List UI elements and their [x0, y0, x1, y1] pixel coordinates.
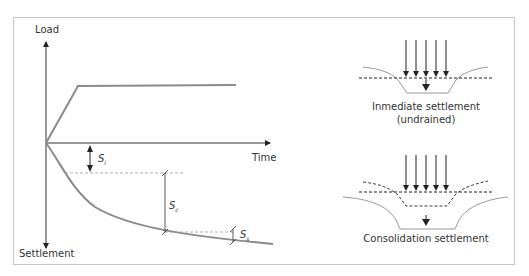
arrow-down-icon — [413, 185, 419, 191]
settlement-diagram: Load Settlement Time Si Sc Ss — [0, 0, 529, 276]
load-arrows — [406, 40, 446, 72]
arrow-down-icon — [423, 185, 429, 191]
load-curve — [46, 85, 236, 143]
arrow-down-icon — [403, 185, 409, 191]
arrow-down-icon — [423, 71, 429, 77]
axes — [46, 42, 270, 248]
time-label: Time — [251, 152, 276, 163]
si-arrow-down-icon — [87, 165, 93, 172]
arrow-down-icon — [443, 71, 449, 77]
load-arrows — [406, 155, 446, 186]
settlement-arrow-icon — [422, 219, 430, 226]
load-label: Load — [35, 24, 59, 35]
arrow-down-icon — [443, 185, 449, 191]
sc-symbol: Sc — [169, 200, 179, 213]
si-symbol: Si — [98, 153, 106, 166]
settlement-arrow-icon — [422, 84, 430, 91]
immediate-caption-line2: (undrained) — [397, 114, 456, 125]
immediate-panel: Inmediate settlement (undrained) — [359, 40, 492, 125]
si-arrow-up-icon — [87, 145, 93, 152]
arrow-down-icon — [433, 71, 439, 77]
consolidation-panel: Consolidation settlement — [343, 155, 508, 244]
settlement-label: Settlement — [19, 248, 75, 259]
consolidation-caption: Consolidation settlement — [363, 233, 488, 244]
arrow-down-icon — [433, 185, 439, 191]
arrow-down-icon — [403, 71, 409, 77]
settlement-curve — [46, 143, 273, 244]
immediate-caption-line1: Inmediate settlement — [372, 101, 480, 112]
arrow-down-icon — [413, 71, 419, 77]
